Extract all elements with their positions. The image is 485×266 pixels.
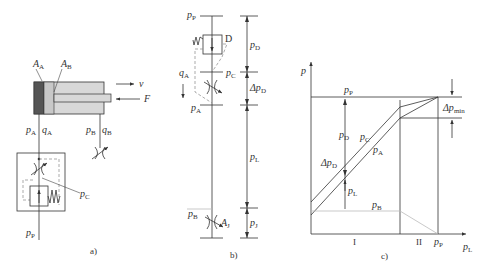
label-pP: pP: [186, 9, 196, 22]
label-pC: pC: [225, 67, 236, 80]
region-II-label: II: [416, 237, 422, 247]
label-qA: qA: [179, 67, 189, 80]
throttle-valve: [204, 80, 222, 94]
label-dpD: ΔpD: [249, 82, 266, 95]
hydraulic-diagram: AA AB v F pA qA pB qB pC: [0, 0, 485, 266]
hydraulic-cylinder: [34, 82, 111, 114]
label-pA: pA: [25, 124, 36, 137]
label-pD: pD: [249, 39, 260, 52]
curve-pA: [311, 97, 438, 215]
pilot-line-2: [23, 180, 33, 200]
label-D: D: [225, 33, 232, 44]
label-pL: pL: [347, 185, 357, 198]
figure-c: p pL pP Δpmin pC pA pD ΔpD pL pB I II pP: [300, 62, 472, 261]
pilot-line-A: [195, 49, 212, 103]
label-pP: pP: [343, 84, 353, 97]
label-pB: pB: [85, 124, 96, 137]
label-pA: pA: [372, 144, 383, 157]
spring-icon: [48, 190, 60, 203]
label-pD: pD: [338, 129, 349, 142]
label-dpD: ΔpD: [320, 157, 337, 170]
label-AA: AA: [32, 58, 44, 71]
caption-b: b): [230, 250, 238, 260]
label-pC: pC: [79, 188, 90, 201]
label-pA: pA: [190, 102, 201, 115]
pilot-line-C: [212, 44, 227, 72]
reducing-valve-D: [203, 35, 222, 54]
label-pB: pB: [187, 208, 198, 221]
label-v: v: [139, 78, 144, 89]
throttle-valve-B: [92, 147, 108, 159]
x-axis-label: pL: [462, 241, 472, 254]
label-AJ: AJ: [220, 217, 230, 230]
caption-a: a): [90, 246, 97, 256]
label-pC: pC: [359, 131, 370, 144]
label-pB: pB: [371, 199, 382, 212]
x-tick-pP: pP: [433, 236, 443, 249]
label-pL: pL: [249, 151, 259, 164]
y-axis-label: p: [300, 65, 306, 76]
figure-a: AA AB v F pA qA pB qB pC: [17, 58, 151, 256]
label-dpmin: Δpmin: [442, 102, 465, 115]
label-pP: pP: [25, 227, 35, 240]
label-pJ: pJ: [249, 217, 258, 230]
curve-pB: [311, 211, 438, 234]
label-qB: qB: [102, 124, 112, 137]
spring-icon: [193, 37, 203, 45]
label-F: F: [143, 93, 151, 104]
figure-b: pP D pC qA pA pB AJ: [179, 9, 266, 260]
caption-c: c): [381, 251, 388, 261]
region-I-label: I: [353, 237, 356, 247]
label-qA: qA: [42, 124, 52, 137]
